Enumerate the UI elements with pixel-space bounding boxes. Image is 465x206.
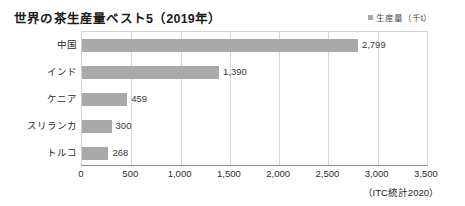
legend-label: 生産量（千t）	[376, 11, 432, 23]
bar-value-label: 2,799	[362, 38, 386, 51]
x-tick-label: 3,000	[365, 168, 389, 179]
x-tick-label: 1,000	[168, 168, 192, 179]
bar-value-label: 268	[112, 146, 128, 159]
bar-row: 1,390	[82, 59, 427, 86]
bar[interactable]	[82, 66, 219, 79]
chart-legend: 生産量（千t）	[368, 11, 432, 23]
category-label: インド	[3, 65, 77, 78]
gridline	[427, 32, 428, 165]
bar[interactable]	[82, 93, 127, 106]
x-tick-label: 2,500	[316, 168, 340, 179]
source-note: （ITC統計2020）	[363, 185, 439, 199]
x-tick-label: 0	[78, 168, 83, 179]
plot-area: 2,7991,390459300268	[81, 31, 428, 166]
bar-row: 300	[82, 113, 427, 140]
x-tick-label: 1,500	[217, 168, 241, 179]
x-tick-label: 2,000	[266, 168, 290, 179]
bar-row: 459	[82, 86, 427, 113]
category-label: トルコ	[3, 146, 77, 159]
bar-row: 268	[82, 140, 427, 167]
bar-value-label: 1,390	[223, 65, 247, 78]
category-axis: 中国インドケニアスリランカトルコ	[0, 31, 77, 166]
bar[interactable]	[82, 39, 358, 52]
chart-container: 世界の茶生産量ベスト5（2019年） 生産量（千t） 中国インドケニアスリランカ…	[0, 0, 465, 206]
x-tick-label: 3,500	[414, 168, 438, 179]
category-label: ケニア	[3, 92, 77, 105]
value-axis: 05001,0001,5002,0002,5003,0003,500	[81, 168, 428, 182]
bar-value-label: 300	[116, 119, 132, 132]
bar-value-label: 459	[131, 92, 147, 105]
legend-marker-icon	[368, 15, 373, 20]
bar[interactable]	[82, 147, 108, 160]
category-label: スリランカ	[3, 119, 77, 132]
chart-title: 世界の茶生産量ベスト5（2019年）	[14, 8, 221, 27]
category-label: 中国	[3, 38, 77, 51]
bar-row: 2,799	[82, 32, 427, 59]
x-tick-label: 500	[122, 168, 138, 179]
bar[interactable]	[82, 120, 112, 133]
